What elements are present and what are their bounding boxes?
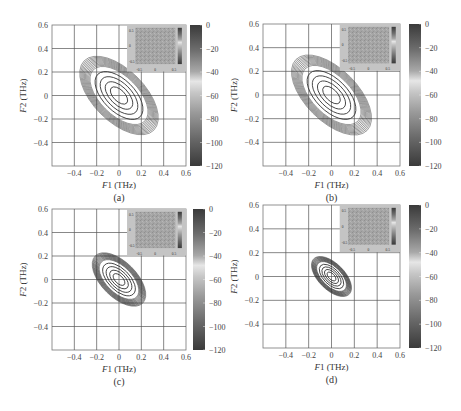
inset-xtick: 0.5 (386, 67, 391, 71)
colorbar-tick-label: 0 (206, 21, 210, 30)
inset-ytick: -0.5 (129, 244, 135, 248)
inset-ytick: -0.5 (129, 60, 135, 64)
inset-ytick: 0 (342, 43, 344, 47)
colorbar: 0−20−40−60−80−100−120 (190, 21, 223, 171)
inset-ytick: -0.5 (342, 59, 348, 63)
x-axis-label: F1 (THz) (313, 362, 348, 372)
colorbar-tick-label: −60 (425, 273, 438, 282)
x-tick-label: 0.2 (349, 169, 359, 178)
inset-ytick: 0.5 (342, 209, 347, 213)
colorbar-tick-label: −20 (206, 45, 219, 54)
colorbar-tick-label: −20 (209, 229, 222, 238)
inset-map: 0.50-0.5-0.500.5 (127, 25, 186, 72)
colorbar-tick-label: −120 (209, 346, 226, 355)
inset-xtick: 0 (367, 248, 369, 252)
y-tick-label: −0.4 (33, 139, 48, 148)
y-tick-label: −0.2 (244, 115, 259, 124)
y-tick-label: −0.4 (244, 320, 259, 329)
inset-xtick: -0.5 (136, 252, 142, 256)
y-tick-label: −0.4 (33, 323, 48, 332)
inset-map: 0.50-0.5-0.500.5 (340, 205, 400, 252)
y-tick-label: 0.6 (249, 20, 259, 29)
panel-b: 0.50-0.5-0.500.50.60.40.20−0.2−0.4−0.4−0… (229, 20, 442, 204)
x-tick-label: 0.2 (136, 353, 146, 362)
x-tick-label: −0.2 (89, 353, 104, 362)
colorbar-tick-label: −100 (425, 320, 442, 329)
y-tick-label: −0.2 (33, 299, 48, 308)
colorbar-tick-label: 0 (425, 201, 429, 210)
colorbar-tick-label: −60 (425, 91, 438, 100)
colorbar: 0−20−40−60−80−100−120 (409, 20, 442, 171)
x-tick-label: −0.2 (301, 351, 316, 360)
panel-label: (d) (326, 374, 338, 386)
x-axis-label: F1 (THz) (313, 180, 348, 190)
panel-label: (a) (113, 192, 124, 204)
inset-xtick: 0 (367, 67, 369, 71)
y-tick-label: 0.4 (38, 45, 48, 54)
y-tick-label: 0.2 (38, 68, 48, 77)
colorbar-tick-label: −20 (425, 225, 438, 234)
colorbar-tick-label: −40 (425, 249, 438, 258)
colorbar-tick-label: −80 (206, 115, 219, 124)
inset-ytick: 0 (342, 225, 344, 229)
figure-canvas: 0.50-0.5-0.500.50.60.40.20−0.2−0.4−0.4−0… (0, 0, 461, 411)
inset-xtick: 0.5 (386, 248, 391, 252)
x-tick-label: 0 (117, 353, 121, 362)
panel-c: 0.50-0.5-0.500.50.60.40.20−0.2−0.4−0.4−0… (18, 205, 226, 388)
colorbar-tick-label: −100 (425, 138, 442, 147)
y-tick-label: 0 (44, 276, 48, 285)
y-axis-label: F2 (THz) (229, 78, 239, 113)
colorbar-tick-label: −60 (206, 92, 219, 101)
inset-map: 0.50-0.5-0.500.5 (127, 209, 186, 256)
colorbar-tick-label: −60 (209, 276, 222, 285)
x-tick-label: 0 (330, 169, 334, 178)
x-axis-label: F1 (THz) (101, 364, 136, 374)
y-tick-label: 0 (255, 91, 259, 100)
colorbar: 0−20−40−60−80−100−120 (193, 205, 226, 355)
x-tick-label: 0.6 (181, 353, 191, 362)
x-tick-label: −0.4 (67, 169, 82, 178)
colorbar-tick-label: −120 (425, 344, 442, 353)
x-tick-label: 0.2 (349, 351, 359, 360)
inset-xtick: 0 (154, 252, 156, 256)
colorbar-tick-label: 0 (425, 20, 429, 29)
x-tick-label: 0.6 (395, 169, 405, 178)
colorbar-tick-label: −40 (209, 252, 222, 261)
x-tick-label: −0.2 (301, 169, 316, 178)
x-tick-label: 0.6 (395, 351, 405, 360)
panel-a: 0.50-0.5-0.500.50.60.40.20−0.2−0.4−0.4−0… (18, 21, 223, 204)
colorbar-tick-label: −100 (206, 139, 223, 148)
x-tick-label: −0.2 (89, 169, 104, 178)
colorbar-tick-label: −40 (425, 67, 438, 76)
y-tick-label: −0.4 (244, 138, 259, 147)
y-tick-label: 0.4 (249, 44, 259, 53)
inset-ytick: 0.5 (342, 28, 347, 32)
inset-xtick: 0.5 (172, 252, 177, 256)
inset-map: 0.50-0.5-0.500.5 (340, 24, 400, 71)
panel-label: (b) (326, 192, 338, 204)
x-tick-label: 0.4 (159, 353, 169, 362)
x-tick-label: 0 (117, 169, 121, 178)
colorbar-tick-label: 0 (209, 205, 213, 214)
inset-xtick: -0.5 (349, 248, 355, 252)
x-tick-label: 0.6 (181, 169, 191, 178)
y-tick-label: 0.2 (249, 249, 259, 258)
colorbar-tick-label: −80 (425, 296, 438, 305)
x-tick-label: 0.2 (136, 169, 146, 178)
y-tick-label: 0.4 (38, 229, 48, 238)
y-tick-label: 0 (255, 273, 259, 282)
x-tick-label: 0.4 (159, 169, 169, 178)
y-tick-label: 0.2 (38, 252, 48, 261)
x-tick-label: 0.4 (372, 351, 382, 360)
panel-label: (c) (113, 376, 124, 388)
y-tick-label: 0.4 (249, 225, 259, 234)
x-tick-label: −0.4 (67, 353, 82, 362)
colorbar-tick-label: −120 (206, 162, 223, 171)
colorbar-tick-label: −80 (209, 299, 222, 308)
colorbar-tick-label: −20 (425, 44, 438, 53)
y-axis-label: F2 (THz) (18, 78, 28, 113)
x-tick-label: −0.4 (279, 351, 294, 360)
y-tick-label: 0.2 (249, 67, 259, 76)
inset-xtick: 0.5 (172, 68, 177, 72)
colorbar-tick-label: −120 (425, 162, 442, 171)
